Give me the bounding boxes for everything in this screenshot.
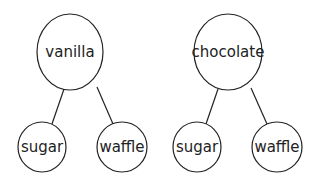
diagram-canvas: vanilla sugar waffle chocolate sugar waf…: [0, 0, 317, 182]
tree-vanilla: vanilla sugar waffle: [18, 14, 147, 172]
edge-chocolate-sugar: [206, 89, 218, 124]
node-label-sugar: sugar: [176, 138, 219, 156]
edge-vanilla-waffle: [97, 87, 113, 124]
node-label-waffle: waffle: [254, 138, 299, 156]
edge-vanilla-sugar: [52, 89, 64, 124]
edge-chocolate-waffle: [251, 88, 267, 124]
tree-chocolate: chocolate sugar waffle: [173, 14, 302, 172]
node-label-sugar: sugar: [21, 138, 64, 156]
node-label-vanilla: vanilla: [45, 43, 94, 61]
node-label-chocolate: chocolate: [192, 43, 265, 61]
node-label-waffle: waffle: [99, 138, 144, 156]
